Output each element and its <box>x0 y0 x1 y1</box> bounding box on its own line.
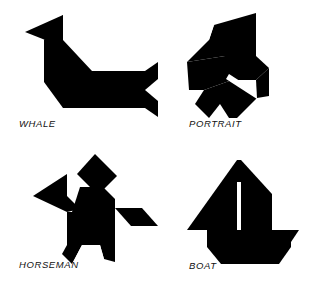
figure-label-boat: BOAT <box>189 261 217 271</box>
horseman-haunch-piece <box>103 187 115 212</box>
boat-stern-deck-piece <box>272 230 299 242</box>
horseman-tail-piece <box>115 208 158 226</box>
boat-foresail-piece <box>187 160 237 230</box>
boat-mast-gap <box>237 182 240 230</box>
figure-horseman: HORSEMAN <box>0 142 158 284</box>
figure-portrait: PORTRAIT <box>159 0 317 142</box>
horseman-head-piece <box>33 174 67 212</box>
horseman-body-piece <box>67 212 115 245</box>
boat-mainsail-piece <box>241 160 272 230</box>
figure-label-whale: WHALE <box>19 119 56 129</box>
figure-label-portrait: PORTRAIT <box>189 119 242 129</box>
boat-sail-apex-piece <box>237 160 241 182</box>
figure-label-horseman: HORSEMAN <box>19 260 79 270</box>
boat-hull-piece <box>207 247 291 264</box>
boat-artwork <box>159 142 317 284</box>
tangram-plate: WHALE <box>0 0 317 284</box>
figure-whale: WHALE <box>0 0 158 142</box>
figure-boat: BOAT <box>159 142 317 284</box>
